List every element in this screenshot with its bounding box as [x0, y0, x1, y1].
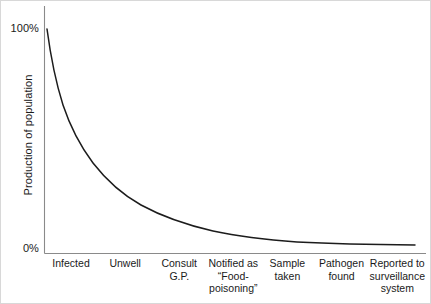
x-tick-line-1: Consult: [153, 257, 205, 270]
x-axis-tick-infected: Infected: [44, 257, 98, 270]
x-tick-line-1: Notified as: [207, 257, 259, 270]
x-tick-line-2: taken: [261, 270, 313, 283]
x-axis-tick-sample-taken: Sample taken: [260, 257, 314, 282]
x-tick-line-1: Unwell: [99, 257, 151, 270]
x-tick-line-1: Sample: [261, 257, 313, 270]
decay-curve: [47, 29, 415, 245]
x-tick-line-3: poisoning”: [207, 282, 259, 295]
x-axis-tick-reported-to-surveillance: Reported to surveillance system: [369, 257, 426, 295]
x-tick-line-2: surveillance: [370, 270, 425, 283]
y-axis-label: Production of population: [22, 45, 34, 225]
x-axis-tick-labels: Infected Unwell Consult G.P. Notified as…: [44, 257, 426, 295]
y-axis-tick-100: 100%: [10, 22, 39, 34]
x-tick-line-1: Reported to: [370, 257, 425, 270]
x-tick-line-1: Pathogen: [315, 257, 367, 270]
y-axis-tick-0: 0%: [23, 242, 39, 254]
x-tick-line-2: found: [315, 270, 367, 283]
x-axis-tick-consult-gp: Consult G.P.: [152, 257, 206, 282]
x-tick-line-3: system: [370, 282, 425, 295]
chart-figure: 100% 0% Production of population Infecte…: [0, 0, 431, 304]
x-tick-line-1: Infected: [45, 257, 97, 270]
x-tick-line-2: G.P.: [153, 270, 205, 283]
x-axis-tick-notified-food-poisoning: Notified as “Food- poisoning”: [206, 257, 260, 295]
x-tick-line-2: “Food-: [207, 270, 259, 283]
x-axis-tick-pathogen-found: Pathogen found: [314, 257, 368, 282]
x-axis-tick-unwell: Unwell: [98, 257, 152, 270]
